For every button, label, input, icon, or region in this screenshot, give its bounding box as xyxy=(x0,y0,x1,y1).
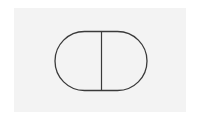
diagram-canvas xyxy=(0,0,198,114)
